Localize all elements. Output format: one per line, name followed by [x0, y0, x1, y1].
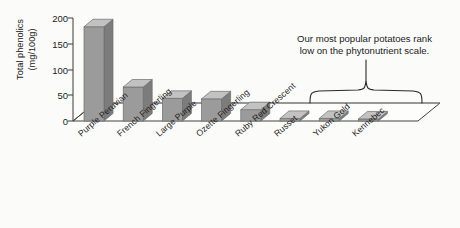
bar-front-face [84, 27, 104, 121]
y-axis-title-line1: Total phenolics [15, 0, 27, 105]
chart-screenshot: Total phenolics (mg/100g) 200 150 100 50… [0, 0, 460, 228]
chart-plot-area: Total phenolics (mg/100g) 200 150 100 50… [0, 0, 460, 228]
y-tick-label: 200 [42, 13, 68, 24]
y-axis-title: Total phenolics (mg/100g) [15, 0, 38, 105]
annotation-brace [310, 81, 422, 103]
y-axis-title-line2: (mg/100g) [26, 0, 38, 105]
y-tick-label: 100 [42, 65, 68, 76]
y-tick-marks [68, 18, 73, 121]
annotation-text-line1: Our most popular potatoes rank [277, 33, 452, 45]
y-tick-label: 50 [42, 90, 68, 101]
y-tick-label: 0 [42, 116, 68, 127]
annotation-text-line2: low on the phytonutrient scale. [277, 45, 452, 57]
y-tick-label: 150 [42, 39, 68, 50]
annotation-text: Our most popular potatoes rank low on th… [277, 33, 452, 58]
y-tick-labels: 200 150 100 50 0 [40, 0, 68, 228]
